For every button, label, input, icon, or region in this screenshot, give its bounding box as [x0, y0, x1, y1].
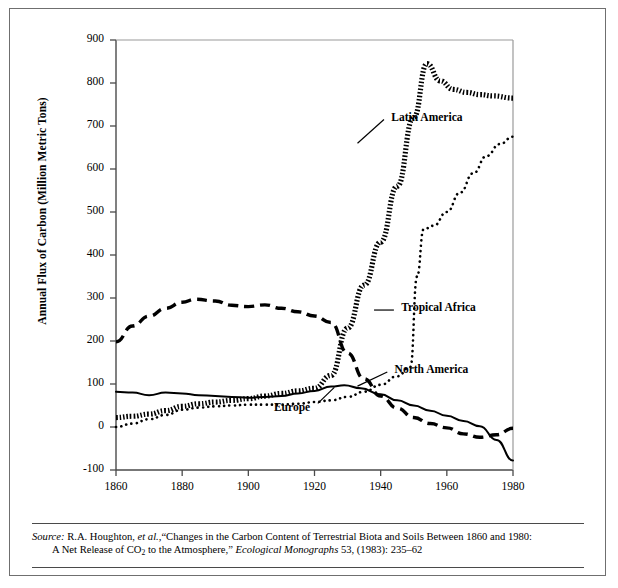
y-tick-label-700: 700 [64, 118, 104, 130]
y-tick-label-100: 100 [64, 376, 104, 388]
x-tick-label-1920: 1920 [289, 480, 341, 492]
source-title-part1: “Changes in the Carbon Content of Terres… [161, 531, 532, 542]
source-volume-pages: 53, (1983): 235–62 [338, 544, 422, 555]
series-label-latin-america: Latin America [391, 111, 462, 123]
y-tick-label-900: 900 [64, 32, 104, 44]
source-journal: Ecological Monographs [236, 544, 339, 555]
series-line-tropical-africa [116, 137, 513, 427]
series-label-north-america: North America [395, 363, 469, 375]
series-label-tropical-africa: Tropical Africa [401, 301, 476, 313]
source-rule-bottom [32, 567, 584, 568]
figure-root: Annual Flux of Carbon (Million Metric To… [0, 0, 618, 588]
y-tick-label-0: 0 [64, 419, 104, 431]
source-etal: et al., [138, 531, 162, 542]
x-tick-label-1880: 1880 [156, 480, 208, 492]
source-title-part3: to the Atmosphere,” [145, 544, 235, 555]
source-citation: Source: R.A. Houghton, et al.,“Changes i… [32, 523, 584, 568]
x-tick-label-1940: 1940 [355, 480, 407, 492]
x-tick-label-1980: 1980 [487, 480, 539, 492]
y-tick-label--100: -100 [64, 462, 104, 474]
source-prefix: Source: [32, 531, 65, 542]
x-tick-label-1960: 1960 [421, 480, 473, 492]
y-tick-label-800: 800 [64, 75, 104, 87]
y-tick-label-300: 300 [64, 290, 104, 302]
y-tick-label-500: 500 [64, 204, 104, 216]
chart-area: Annual Flux of Carbon (Million Metric To… [0, 0, 618, 512]
series-label-europe: Europe [274, 401, 310, 413]
y-tick-label-200: 200 [64, 333, 104, 345]
y-tick-label-400: 400 [64, 247, 104, 259]
source-line-1: Source: R.A. Houghton, et al.,“Changes i… [32, 530, 584, 543]
source-title-part2: A Net Release of CO [52, 544, 141, 555]
series-line-europe [116, 385, 513, 460]
leader-line [358, 120, 384, 144]
y-tick-label-600: 600 [64, 161, 104, 173]
x-tick-label-1900: 1900 [222, 480, 274, 492]
source-rule-top [32, 523, 584, 524]
x-tick-label-1860: 1860 [90, 480, 142, 492]
source-author: R.A. Houghton, [65, 531, 138, 542]
source-line-2: A Net Release of CO2 to the Atmosphere,”… [52, 543, 584, 559]
